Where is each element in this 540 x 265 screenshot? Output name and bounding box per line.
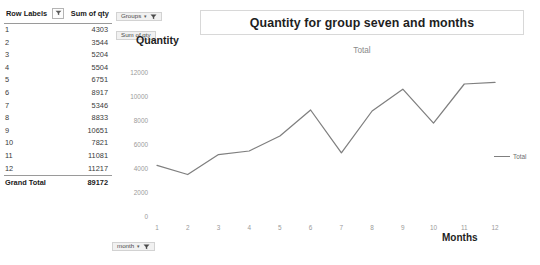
table-row[interactable]: 68917 [4,86,112,99]
grand-total-row[interactable]: Grand Total89172 [4,175,112,190]
x-axis-ticks: 123456789101112 [155,224,499,231]
table-row[interactable]: 1111081 [4,149,112,162]
table-row[interactable]: 75346 [4,99,112,112]
table-row[interactable]: 1211217 [4,162,112,175]
x-axis-tick-label: 6 [309,224,313,231]
row-value-cell: 5204 [68,49,112,62]
pivot-table-grid: Row Labels Sum of qty 143032354435204455… [4,6,112,190]
pivot-table-body: 1430323544352044550456751689177534688833… [4,23,112,190]
row-label-cell: 6 [4,86,68,99]
legend-swatch-total [494,156,510,157]
line-series-total[interactable] [157,82,495,174]
y-axis-tick-label: 4000 [134,165,149,172]
column-header-sum-of-qty[interactable]: Sum of qty [68,6,112,23]
row-label-cell: 4 [4,61,68,74]
row-value-cell: 4303 [68,23,112,36]
row-label-cell: 2 [4,36,68,49]
plot-area[interactable]: 020004000600080001000012000 123456789101… [112,6,536,259]
y-axis-tick-label: 10000 [130,93,148,100]
table-row[interactable]: 88833 [4,112,112,125]
row-value-cell: 5504 [68,61,112,74]
row-label-cell: 12 [4,162,68,175]
row-value-cell: 3544 [68,36,112,49]
row-label-cell: 8 [4,112,68,125]
x-axis-tick-label: 9 [401,224,405,231]
row-value-cell: 11081 [68,149,112,162]
table-row[interactable]: 35204 [4,49,112,62]
table-row[interactable]: 23544 [4,36,112,49]
y-axis-ticks: 020004000600080001000012000 [130,69,148,220]
row-label-cell: 10 [4,137,68,150]
x-axis-tick-label: 10 [430,224,438,231]
table-row[interactable]: 14303 [4,23,112,36]
row-value-cell: 7821 [68,137,112,150]
pivot-table-header: Row Labels Sum of qty [4,6,112,23]
pivot-table: Row Labels Sum of qty 143032354435204455… [4,6,112,190]
y-axis-tick-label: 2000 [134,189,149,196]
y-axis-tick-label: 6000 [134,141,149,148]
table-header-row: Row Labels Sum of qty [4,6,112,23]
chart-legend[interactable]: Total [494,153,527,160]
row-value-cell: 10651 [68,124,112,137]
table-row[interactable]: 107821 [4,137,112,150]
table-row[interactable]: 56751 [4,74,112,87]
x-axis-tick-label: 1 [155,224,159,231]
row-value-cell: 8917 [68,86,112,99]
row-label-cell: 9 [4,124,68,137]
x-axis-tick-label: 12 [491,224,499,231]
row-value-cell: 11217 [68,162,112,175]
table-row[interactable]: 910651 [4,124,112,137]
y-axis-tick-label: 8000 [134,117,149,124]
x-axis-tick-label: 4 [247,224,251,231]
row-value-cell: 5346 [68,99,112,112]
x-axis-tick-label: 5 [278,224,282,231]
y-axis-tick-label: 12000 [130,69,148,76]
row-value-cell: 8833 [68,112,112,125]
row-label-cell: 11 [4,149,68,162]
grand-total-label: Grand Total [4,175,68,190]
table-row[interactable]: 45504 [4,61,112,74]
x-axis-tick-label: 3 [217,224,221,231]
row-value-cell: 6751 [68,74,112,87]
y-axis-tick-label: 0 [144,213,148,220]
x-axis-tick-label: 8 [370,224,374,231]
legend-label-total: Total [513,153,527,160]
column-header-row-labels[interactable]: Row Labels [4,6,68,23]
x-axis-tick-label: 11 [461,224,468,231]
grand-total-value: 89172 [68,175,112,190]
row-labels-filter-icon[interactable] [52,8,64,19]
row-label-cell: 3 [4,49,68,62]
row-label-cell: 5 [4,74,68,87]
column-header-row-labels-text: Row Labels [6,9,47,18]
row-label-cell: 7 [4,99,68,112]
x-axis-tick-label: 2 [186,224,190,231]
x-axis-tick-label: 7 [340,224,344,231]
row-label-cell: 1 [4,23,68,36]
pivot-chart[interactable]: Groups ▾ Sum of qty month ▾ Quantity for… [112,6,536,259]
